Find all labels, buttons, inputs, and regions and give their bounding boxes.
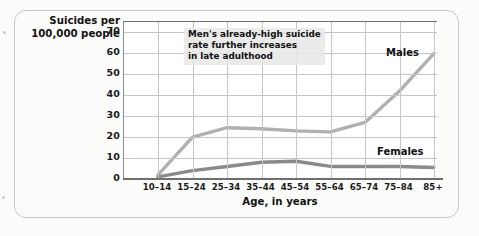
page-background: Suicides per 100,000 people 010203040506…	[0, 0, 479, 236]
series-label-males: Males	[386, 47, 419, 58]
series-label-females: Females	[377, 146, 424, 157]
x-tick-label: 15–24	[177, 182, 206, 192]
y-tick-label: 60	[94, 46, 120, 57]
y-tick-label: 0	[94, 172, 120, 183]
gridline-horizontal	[124, 95, 437, 96]
y-tick-label: 20	[94, 130, 120, 141]
x-tick-label: 55–64	[315, 182, 344, 192]
gridline-vertical	[331, 22, 332, 178]
y-tick-label: 40	[94, 88, 120, 99]
gridline-vertical	[434, 22, 435, 178]
x-tick-label: 25–34	[212, 182, 241, 192]
y-tick-label: 50	[94, 67, 120, 78]
x-tick-label: 75–84	[384, 182, 413, 192]
y-tick-label: 30	[94, 109, 120, 120]
x-axis-title: Age, in years	[123, 196, 437, 207]
x-tick-label: 85+	[423, 182, 442, 192]
gridline-horizontal	[124, 116, 437, 117]
chart-annotation: Men's already-high suicide rate further …	[184, 28, 325, 65]
y-tick-label: 10	[94, 151, 120, 162]
gridline-horizontal	[124, 74, 437, 75]
gridline-vertical	[365, 22, 366, 178]
x-axis-line	[123, 178, 443, 180]
y-axis-tick-labels: 010203040506070	[88, 0, 120, 236]
gridline-vertical	[158, 22, 159, 178]
line-chart: Suicides per 100,000 people 010203040506…	[0, 0, 479, 236]
x-tick-label: 10–14	[143, 182, 172, 192]
x-tick-label: 65–74	[350, 182, 379, 192]
y-tick-label: 70	[94, 25, 120, 36]
gridline-horizontal	[124, 158, 437, 159]
x-tick-label: 35–44	[246, 182, 275, 192]
gridline-horizontal	[124, 137, 437, 138]
x-tick-label: 45–54	[281, 182, 310, 192]
